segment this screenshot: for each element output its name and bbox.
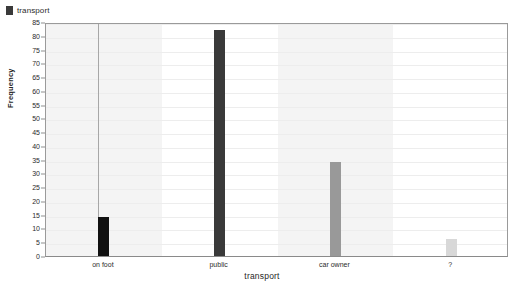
gridline (46, 230, 507, 231)
x-tick-label: on foot (92, 261, 113, 269)
y-tick-label: 5 (36, 239, 40, 247)
y-tick-label: 50 (32, 115, 40, 123)
plot-area (45, 23, 508, 257)
gridline (46, 24, 507, 25)
y-axis-ticks: 0510152025303540455055606570758085 (0, 23, 45, 257)
gridline (46, 65, 507, 66)
bar-car-owner[interactable] (330, 162, 341, 256)
gridline (46, 134, 507, 135)
y-tick-label: 15 (32, 212, 40, 220)
gridline (46, 189, 507, 190)
y-tick-label: 35 (32, 157, 40, 165)
gridline (46, 107, 507, 108)
y-tick-label: 45 (32, 129, 40, 137)
y-axis-title: Frequency (6, 68, 15, 108)
x-axis-ticks: on footpubliccar owner? (45, 258, 508, 272)
y-tick-label: 60 (32, 88, 40, 96)
gridline (46, 162, 507, 163)
x-tick-label: car owner (319, 261, 350, 269)
y-tick-label: 25 (32, 184, 40, 192)
category-band (393, 24, 508, 256)
gridline (46, 79, 507, 80)
gridline (46, 120, 507, 121)
y-tick-label: 80 (32, 33, 40, 41)
y-tick-label: 0 (36, 253, 40, 261)
bar-public[interactable] (214, 30, 225, 256)
chart-legend[interactable]: transport (6, 4, 49, 16)
y-tick-label: 70 (32, 60, 40, 68)
y-tick-label: 40 (32, 143, 40, 151)
gridline (46, 38, 507, 39)
y-tick-label: 65 (32, 74, 40, 82)
y-tick-label: 75 (32, 47, 40, 55)
x-tick-label: ? (448, 261, 452, 269)
legend-label-transport: transport (17, 6, 49, 15)
gridline (46, 175, 507, 176)
bar--[interactable] (446, 239, 457, 256)
y-tick-label: 55 (32, 102, 40, 110)
gridline (46, 244, 507, 245)
y-tick-label: 85 (32, 19, 40, 27)
x-axis-title: transport (0, 271, 524, 281)
gridline (46, 217, 507, 218)
gridline (46, 93, 507, 94)
bar-on-foot[interactable] (98, 217, 109, 256)
x-tick-label: public (209, 261, 227, 269)
bar-chart: transport 051015202530354045505560657075… (0, 0, 524, 294)
y-tick-label: 30 (32, 170, 40, 178)
gridline (46, 148, 507, 149)
y-tick-label: 20 (32, 198, 40, 206)
gridline (46, 203, 507, 204)
legend-swatch-icon (6, 6, 13, 15)
y-tick-label: 10 (32, 225, 40, 233)
gridline (46, 52, 507, 53)
